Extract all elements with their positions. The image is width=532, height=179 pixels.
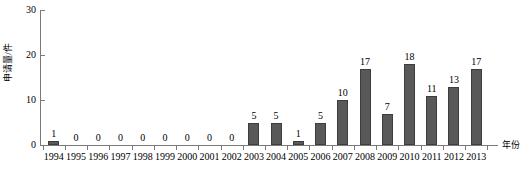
x-tick-mark [154, 146, 155, 150]
bar [448, 87, 459, 146]
x-tick-mark [354, 146, 355, 150]
bar-value-label: 18 [396, 52, 424, 62]
y-tick-label: 30 [8, 5, 36, 15]
bar [48, 141, 59, 146]
bar [315, 123, 326, 146]
bar-chart: 申请量/件 0102030 11994019950199601997019980… [0, 0, 532, 179]
y-axis-title: 申请量/件 [1, 40, 14, 86]
x-tick-mark [176, 146, 177, 150]
y-tick-mark [41, 10, 45, 11]
x-tick-mark [421, 146, 422, 150]
x-tick-mark [221, 146, 222, 150]
bar-value-label: 17 [351, 57, 379, 67]
x-tick-mark [109, 146, 110, 150]
x-tick-mark [398, 146, 399, 150]
bar-value-label: 13 [440, 75, 468, 85]
bar [360, 69, 371, 146]
x-tick-mark [487, 146, 488, 150]
x-tick-mark [443, 146, 444, 150]
x-tick-mark [376, 146, 377, 150]
bar [404, 64, 415, 145]
y-tick-mark [41, 100, 45, 101]
bar [382, 114, 393, 146]
y-tick-label: 0 [8, 140, 36, 150]
x-tick-mark [65, 146, 66, 150]
bar [271, 123, 282, 146]
y-tick-mark [41, 55, 45, 56]
bar [471, 69, 482, 146]
x-tick-mark [465, 146, 466, 150]
y-tick-label: 10 [8, 95, 36, 105]
x-tick-mark [265, 146, 266, 150]
bar [293, 141, 304, 146]
bar-value-label: 0 [218, 133, 246, 143]
bar [426, 96, 437, 146]
x-tick-mark [287, 146, 288, 150]
x-tick-label: 2013 [462, 152, 490, 162]
bar-value-label: 17 [462, 57, 490, 67]
bar-value-label: 7 [373, 102, 401, 112]
x-tick-mark [132, 146, 133, 150]
x-tick-mark [87, 146, 88, 150]
bar [248, 123, 259, 146]
x-tick-mark [43, 146, 44, 150]
x-axis-title: 年份 [502, 138, 520, 151]
x-tick-mark [198, 146, 199, 150]
bar [337, 100, 348, 145]
x-tick-mark [243, 146, 244, 150]
x-tick-mark [332, 146, 333, 150]
bar-value-label: 1 [284, 129, 312, 139]
bar-value-label: 5 [307, 111, 335, 121]
bar-value-label: 11 [418, 84, 446, 94]
y-tick-label: 20 [8, 50, 36, 60]
y-axis-line [40, 10, 41, 145]
bar-value-label: 10 [329, 88, 357, 98]
bar-value-label: 5 [262, 111, 290, 121]
x-tick-mark [309, 146, 310, 150]
